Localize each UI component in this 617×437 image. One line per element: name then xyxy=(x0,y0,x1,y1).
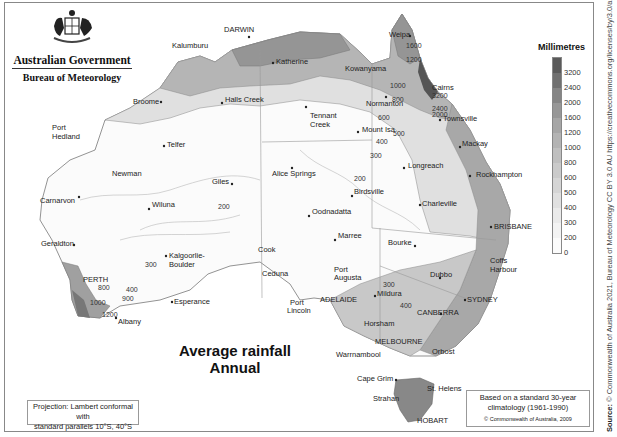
map-title-line1: Average rainfall xyxy=(170,342,300,359)
legend-tick: 1600 xyxy=(564,114,581,122)
copyright-text: © Commonwealth of Australia, 2009 xyxy=(467,414,589,424)
legend-swatch xyxy=(552,73,562,88)
government-name: Australian Government xyxy=(12,54,132,69)
svg-text:Kalumburu: Kalumburu xyxy=(172,41,208,50)
svg-text:1600: 1600 xyxy=(406,42,422,49)
svg-text:200: 200 xyxy=(354,175,366,182)
svg-text:300: 300 xyxy=(383,281,395,288)
svg-text:Port: Port xyxy=(52,123,67,132)
svg-text:1000: 1000 xyxy=(390,82,406,89)
svg-text:Tennant: Tennant xyxy=(310,111,338,120)
svg-text:Halls Creek: Halls Creek xyxy=(225,95,264,104)
projection-line2: standard parallels 10°S, 40°S xyxy=(28,422,138,432)
legend-title: Millimetres xyxy=(538,42,585,52)
svg-text:1200: 1200 xyxy=(406,56,422,63)
svg-text:Charleville: Charleville xyxy=(422,199,457,208)
svg-text:Augusta: Augusta xyxy=(334,273,362,282)
projection-note: Projection: Lambert conformal with stand… xyxy=(27,400,139,425)
svg-text:Cook: Cook xyxy=(258,245,276,254)
svg-text:Albany: Albany xyxy=(118,317,141,326)
svg-text:Longreach: Longreach xyxy=(408,161,443,170)
svg-text:Oodnadatta: Oodnadatta xyxy=(312,207,352,216)
svg-text:Cape Grim: Cape Grim xyxy=(357,374,393,383)
svg-text:Geraldton: Geraldton xyxy=(41,239,74,248)
agency-name: Bureau of Meteorology xyxy=(12,72,132,83)
legend-swatch xyxy=(552,208,562,223)
svg-text:Carnarvon: Carnarvon xyxy=(40,196,75,205)
svg-text:Lincoln: Lincoln xyxy=(287,306,311,315)
svg-text:600: 600 xyxy=(378,114,390,121)
svg-text:Alice Springs: Alice Springs xyxy=(272,169,316,178)
svg-text:Birdsville: Birdsville xyxy=(354,187,384,196)
svg-text:200: 200 xyxy=(218,203,230,210)
svg-text:Bourke: Bourke xyxy=(388,238,412,247)
svg-text:Mackay: Mackay xyxy=(462,139,488,148)
source-text: © Commonwealth of Australia 2021, Bureau… xyxy=(605,0,614,402)
svg-text:Weipa: Weipa xyxy=(389,30,411,39)
svg-text:Hedland: Hedland xyxy=(52,132,80,141)
svg-text:Boulder: Boulder xyxy=(169,260,195,269)
svg-text:Marree: Marree xyxy=(338,231,362,240)
svg-text:3200: 3200 xyxy=(432,92,448,99)
legend-tick: 200 xyxy=(564,234,577,242)
legend-tick: 600 xyxy=(564,174,577,182)
svg-text:Horsham: Horsham xyxy=(364,319,394,328)
svg-text:400: 400 xyxy=(400,302,412,309)
svg-text:1000: 1000 xyxy=(90,299,106,306)
svg-text:800: 800 xyxy=(392,96,404,103)
source-attribution: Source: © Commonwealth of Australia 2021… xyxy=(605,0,614,432)
legend-tick: 800 xyxy=(564,159,577,167)
svg-text:Wiluna: Wiluna xyxy=(152,200,176,209)
svg-text:Ceduna: Ceduna xyxy=(262,269,289,278)
svg-text:Rockhampton: Rockhampton xyxy=(476,170,522,179)
climatology-line2: climatology (1961-1990) xyxy=(467,403,589,413)
svg-text:Kalgoorlie-: Kalgoorlie- xyxy=(169,251,205,260)
svg-text:St. Helens: St. Helens xyxy=(427,384,462,393)
coat-of-arms-icon xyxy=(42,6,102,48)
svg-text:DARWIN: DARWIN xyxy=(224,25,254,34)
legend-swatch xyxy=(552,148,562,163)
svg-text:HOBART: HOBART xyxy=(417,416,449,425)
climatology-note: Based on a standard 30-year climatology … xyxy=(466,390,590,427)
svg-text:CANBERRA: CANBERRA xyxy=(417,308,459,317)
legend-swatch xyxy=(552,88,562,103)
legend-tick: 300 xyxy=(564,219,577,227)
svg-text:Coffs: Coffs xyxy=(490,256,508,265)
map-title: Average rainfall Annual xyxy=(170,342,300,376)
svg-text:Mount Isa: Mount Isa xyxy=(362,125,396,134)
svg-text:MELBOURNE: MELBOURNE xyxy=(375,337,423,346)
legend-swatch xyxy=(552,223,562,238)
bom-logo: Australian Government Bureau of Meteorol… xyxy=(12,6,132,83)
svg-text:300: 300 xyxy=(145,261,157,268)
svg-text:800: 800 xyxy=(98,284,110,291)
svg-text:900: 900 xyxy=(122,295,134,302)
svg-text:Creek: Creek xyxy=(310,120,330,129)
svg-text:Orbost: Orbost xyxy=(432,347,455,356)
svg-text:Townsville: Townsville xyxy=(443,114,477,123)
color-legend: 3200240020001600120010008006005004003002… xyxy=(552,57,562,254)
svg-text:Dubbo: Dubbo xyxy=(430,270,452,279)
legend-tick: 2000 xyxy=(564,99,581,107)
svg-text:Harbour: Harbour xyxy=(490,265,518,274)
legend-swatch xyxy=(552,133,562,148)
svg-text:Katherine: Katherine xyxy=(276,57,308,66)
climatology-line1: Based on a standard 30-year xyxy=(467,393,589,403)
svg-text:500: 500 xyxy=(393,130,405,137)
svg-text:300: 300 xyxy=(370,152,382,159)
svg-text:Telfer: Telfer xyxy=(167,140,186,149)
svg-text:Broome: Broome xyxy=(133,97,159,106)
svg-text:PERTH: PERTH xyxy=(83,275,108,284)
svg-text:2000: 2000 xyxy=(432,111,448,118)
svg-text:Warrnambool: Warrnambool xyxy=(336,350,381,359)
legend-tick: 2400 xyxy=(564,84,581,92)
svg-text:Giles: Giles xyxy=(212,177,229,186)
svg-text:ADELAIDE: ADELAIDE xyxy=(320,295,357,304)
legend-swatch xyxy=(552,103,562,118)
svg-text:Kowanyama: Kowanyama xyxy=(345,64,387,73)
svg-text:Mildura: Mildura xyxy=(377,289,402,298)
legend-tick: 1000 xyxy=(564,144,581,152)
svg-text:1200: 1200 xyxy=(102,311,118,318)
svg-text:BRISBANE: BRISBANE xyxy=(494,222,532,231)
source-label: Source: xyxy=(605,404,614,432)
svg-text:SYDNEY: SYDNEY xyxy=(467,295,498,304)
